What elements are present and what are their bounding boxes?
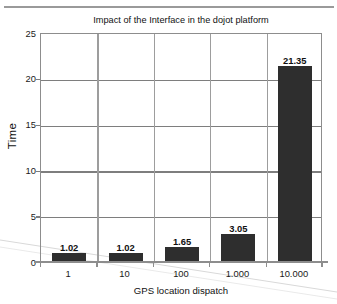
x-tick-label-10000: 10.000 (266, 268, 322, 279)
y-tick-label-20: 20 (10, 74, 36, 83)
category-separator-1 (97, 34, 98, 262)
category-separator-2 (154, 34, 155, 262)
x-axis-baseline (34, 261, 328, 263)
bar-10000[interactable] (278, 66, 312, 262)
x-axis-title: GPS location dispatch (40, 285, 322, 296)
y-axis-ticks: 25 20 15 10 5 0 (8, 33, 36, 262)
bar-value-label-10: 1.02 (97, 242, 155, 253)
x-tick-mark-0 (40, 262, 41, 267)
y-tick-label-10: 10 (10, 166, 36, 175)
x-tick-label-1000: 1.000 (209, 268, 265, 279)
bar-1000[interactable] (221, 234, 255, 262)
x-tick-mark-2 (153, 262, 154, 267)
x-tick-label-100: 100 (153, 268, 209, 279)
bar-value-label-1: 1.02 (40, 242, 98, 253)
x-tick-label-10: 10 (96, 268, 152, 279)
x-tick-mark-1 (96, 262, 97, 267)
bar-value-label-1000: 3.05 (209, 223, 267, 234)
y-tick-label-25: 25 (10, 29, 36, 38)
plot-area: 1.02 1.02 1.65 3.05 21.35 (40, 33, 322, 262)
y-tick-label-0: 0 (10, 258, 36, 267)
bar-100[interactable] (165, 247, 199, 262)
x-tick-mark-3 (209, 262, 210, 267)
chart-title: Impact of the Interface in the dojot pla… (40, 15, 322, 25)
bar-value-label-10000: 21.35 (266, 55, 324, 66)
y-tick-label-5: 5 (10, 212, 36, 221)
bar-value-label-100: 1.65 (153, 236, 211, 247)
bar-chart-figure: Impact of the Interface in the dojot pla… (0, 0, 337, 304)
x-tick-mark-5 (321, 262, 322, 267)
x-tick-mark-4 (266, 262, 267, 267)
y-tick-label-15: 15 (10, 120, 36, 129)
x-tick-label-1: 1 (40, 268, 96, 279)
